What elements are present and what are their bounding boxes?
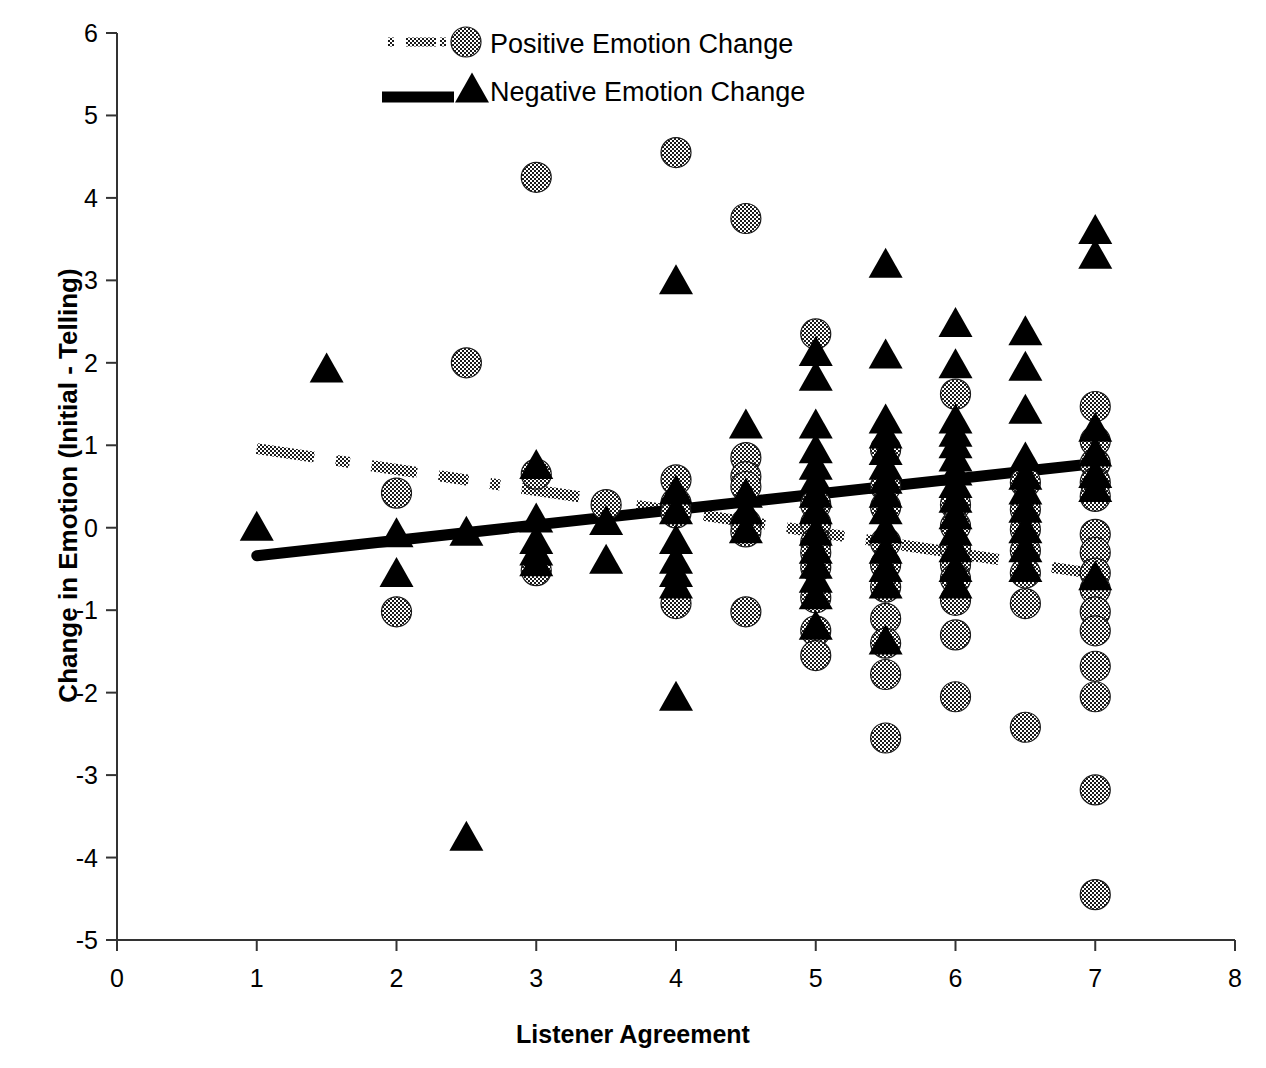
y-tick-label: 2 (84, 349, 98, 377)
data-point-negative (240, 511, 274, 541)
y-tick-label: -3 (76, 761, 98, 789)
data-point-positive (1080, 775, 1110, 805)
data-point-negative (1008, 394, 1042, 424)
legend: Positive Emotion ChangeNegative Emotion … (382, 27, 805, 107)
data-point-positive (731, 597, 761, 627)
data-points (240, 138, 1113, 910)
data-point-negative (380, 517, 414, 547)
y-tick-label: 5 (84, 101, 98, 129)
data-point-positive (1010, 589, 1040, 619)
data-point-positive (801, 641, 831, 671)
x-tick-label: 2 (390, 964, 404, 992)
data-point-negative (589, 544, 623, 574)
chart-root: 6543210-1-2-3-4-5012345678 Positive Emot… (0, 0, 1266, 1068)
data-point-positive (871, 723, 901, 753)
data-point-negative (310, 352, 344, 382)
y-tick-label: 3 (84, 266, 98, 294)
data-point-positive (1010, 712, 1040, 742)
data-point-positive (521, 162, 551, 192)
data-point-negative (939, 307, 973, 337)
x-tick-label: 4 (669, 964, 683, 992)
y-axis-label: Change in Emotion (Initial - Telling) (53, 226, 84, 746)
data-point-negative (659, 264, 693, 294)
data-point-positive (1080, 880, 1110, 910)
data-point-negative (659, 681, 693, 711)
data-point-negative (1008, 351, 1042, 381)
y-tick-label: 1 (84, 431, 98, 459)
data-point-negative (519, 449, 553, 479)
legend-label-negative: Negative Emotion Change (490, 77, 805, 107)
y-tick-label: 4 (84, 184, 98, 212)
legend-positive-marker-icon (451, 27, 481, 57)
x-axis-label: Listener Agreement (0, 1020, 1266, 1049)
data-point-negative (869, 248, 903, 278)
data-point-positive (1080, 651, 1110, 681)
y-tick-label: -5 (76, 926, 98, 954)
x-tick-label: 1 (250, 964, 264, 992)
data-point-positive (871, 659, 901, 689)
data-point-positive (382, 597, 412, 627)
x-tick-label: 7 (1088, 964, 1102, 992)
x-tick-label: 6 (949, 964, 963, 992)
data-point-positive (941, 682, 971, 712)
legend-label-positive: Positive Emotion Change (490, 29, 793, 59)
data-point-negative (869, 338, 903, 368)
data-point-negative (939, 348, 973, 378)
data-point-positive (941, 620, 971, 650)
x-tick-label: 3 (529, 964, 543, 992)
data-point-negative (380, 557, 414, 587)
data-point-negative (449, 821, 483, 851)
x-tick-label: 5 (809, 964, 823, 992)
data-point-positive (1080, 616, 1110, 646)
x-tick-label: 0 (110, 964, 124, 992)
y-tick-label: 6 (84, 19, 98, 47)
data-point-positive (661, 138, 691, 168)
scatter-plot-svg: 6543210-1-2-3-4-5012345678 Positive Emot… (0, 0, 1266, 1068)
data-point-positive (451, 348, 481, 378)
data-point-positive (382, 478, 412, 508)
data-point-negative (729, 409, 763, 439)
x-tick-label: 8 (1228, 964, 1242, 992)
data-point-positive (1080, 682, 1110, 712)
data-point-negative (1008, 315, 1042, 345)
y-tick-label: -4 (76, 844, 98, 872)
data-point-positive (731, 204, 761, 234)
legend-negative-marker-icon (455, 72, 489, 102)
y-tick-label: 0 (84, 514, 98, 542)
